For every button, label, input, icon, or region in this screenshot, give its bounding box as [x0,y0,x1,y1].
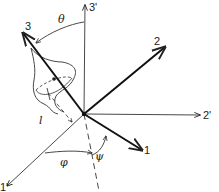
euler-angle-diagram: 3' 2' 1' 3 2 1 θ φ ψ l [0,0,219,192]
body-axis-3 [23,33,84,114]
label-3: 3 [25,20,31,32]
label-theta: θ [58,13,65,26]
phi-arc [45,151,92,153]
label-2: 2 [154,35,160,47]
lab-axis-2prime [84,114,200,115]
lab-axis-1prime [7,114,84,186]
label-3prime: 3' [89,1,97,13]
origin-point [82,112,86,116]
molecule-shape [31,48,76,114]
center-of-mass-dot [52,77,56,81]
label-length: l [39,114,43,127]
label-2prime: 2' [203,109,211,121]
label-1prime: 1' [0,181,8,192]
label-1: 1 [144,144,150,156]
label-phi: φ [60,156,68,169]
label-psi: ψ [95,150,104,163]
lab-axis-3prime [84,5,85,114]
body-axis-2 [84,47,165,114]
body-axis-1 [84,114,142,150]
